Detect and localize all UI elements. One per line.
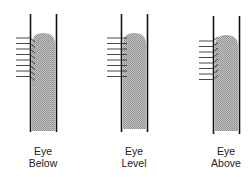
label-line2: Below bbox=[13, 157, 73, 169]
label-eye-level: Eye Level bbox=[104, 145, 164, 169]
tube-eye-above bbox=[199, 16, 240, 134]
label-eye-above: Eye Above bbox=[196, 145, 252, 169]
label-line2: Level bbox=[104, 157, 164, 169]
label-line1: Eye bbox=[104, 145, 164, 157]
liquid-column bbox=[32, 33, 55, 131]
liquid-column bbox=[123, 33, 146, 129]
label-eye-below: Eye Below bbox=[13, 145, 73, 169]
tube-eye-below bbox=[16, 14, 57, 132]
liquid-column bbox=[215, 35, 238, 131]
label-line1: Eye bbox=[196, 145, 252, 157]
tube-eye-level bbox=[107, 14, 148, 132]
label-line1: Eye bbox=[13, 145, 73, 157]
label-line2: Above bbox=[196, 157, 252, 169]
